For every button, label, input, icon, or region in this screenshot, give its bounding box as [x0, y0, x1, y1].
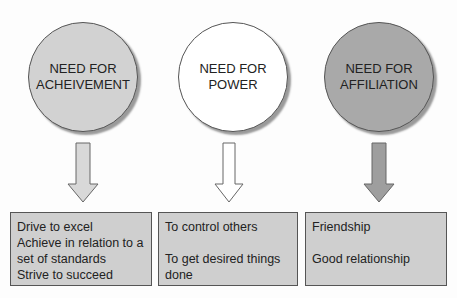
trait-text: To control others: [165, 219, 291, 235]
circle-label: NEED FOR ACHEIVEMENT: [36, 61, 130, 93]
box-affiliation-traits: Friendship Good relationship: [305, 212, 447, 286]
circle-need-achievement: NEED FOR ACHEIVEMENT: [28, 22, 138, 132]
down-arrow-icon: [66, 142, 100, 204]
trait-text: To get desired things done: [165, 251, 291, 283]
down-arrow-icon: [213, 142, 247, 204]
circle-label: NEED FOR AFFILIATION: [340, 61, 418, 93]
trait-text: Achieve in relation to a set of standard…: [17, 235, 145, 267]
circle-need-affiliation: NEED FOR AFFILIATION: [324, 22, 434, 132]
down-arrow-icon: [362, 142, 396, 204]
circle-label: NEED FOR POWER: [199, 61, 266, 93]
box-achievement-traits: Drive to excel Achieve in relation to a …: [10, 212, 152, 286]
trait-text: Drive to excel: [17, 219, 145, 235]
trait-text: Strive to succeed: [17, 267, 145, 283]
trait-text: Good relationship: [312, 251, 440, 267]
circle-need-power: NEED FOR POWER: [178, 22, 288, 132]
trait-text: Friendship: [312, 219, 440, 235]
box-power-traits: To control others To get desired things …: [158, 212, 298, 286]
